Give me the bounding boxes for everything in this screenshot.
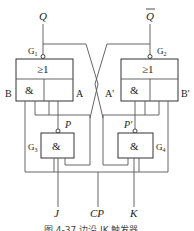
p-label: P <box>64 119 71 130</box>
figure-caption: 图 4-37 边沿 JK 触发器 <box>44 224 138 231</box>
g1-or-symbol: ≥1 <box>37 63 49 75</box>
input-j-label: J <box>54 207 60 219</box>
g3-label: G3 <box>28 142 38 153</box>
g1-inversion-bubble <box>41 55 45 59</box>
g4-inversion-bubble <box>133 129 137 133</box>
g4-input-wires <box>103 115 139 207</box>
g2-inversion-bubble <box>148 55 152 59</box>
output-q-bar-label: Q <box>146 9 155 22</box>
jk-flip-flop-diagram: Q Q G1 G2 ≥1 & B A ≥1 & A' B' <box>0 0 194 231</box>
input-cp-label: CP <box>90 207 104 219</box>
input-k-label: K <box>129 207 138 219</box>
p-prime-label: P' <box>123 119 133 130</box>
g1-input-b-label: B <box>5 88 12 99</box>
g1-label: G1 <box>28 46 38 57</box>
gate-g2: ≥1 & <box>121 59 178 101</box>
g2-input-b-prime-label: B' <box>181 88 190 99</box>
g3-inversion-bubble <box>56 129 60 133</box>
g4-and-symbol: & <box>130 140 139 152</box>
gate-g1: ≥1 & <box>16 59 73 101</box>
gate-g3: & <box>41 133 74 158</box>
g4-label: G4 <box>156 142 166 153</box>
gate-g4: & <box>118 133 153 158</box>
g2-input-a-prime-label: A' <box>105 88 114 99</box>
svg-text:Q: Q <box>146 10 154 22</box>
output-q-label: Q <box>39 10 47 22</box>
g2-or-symbol: ≥1 <box>142 63 154 75</box>
g2-label: G2 <box>157 46 167 57</box>
g3-and-symbol: & <box>52 140 61 152</box>
g2-and-symbol: & <box>130 84 139 96</box>
g1-and-symbol: & <box>25 84 34 96</box>
g1-input-a-label: A <box>76 88 84 99</box>
g3-input-wires <box>54 115 90 207</box>
